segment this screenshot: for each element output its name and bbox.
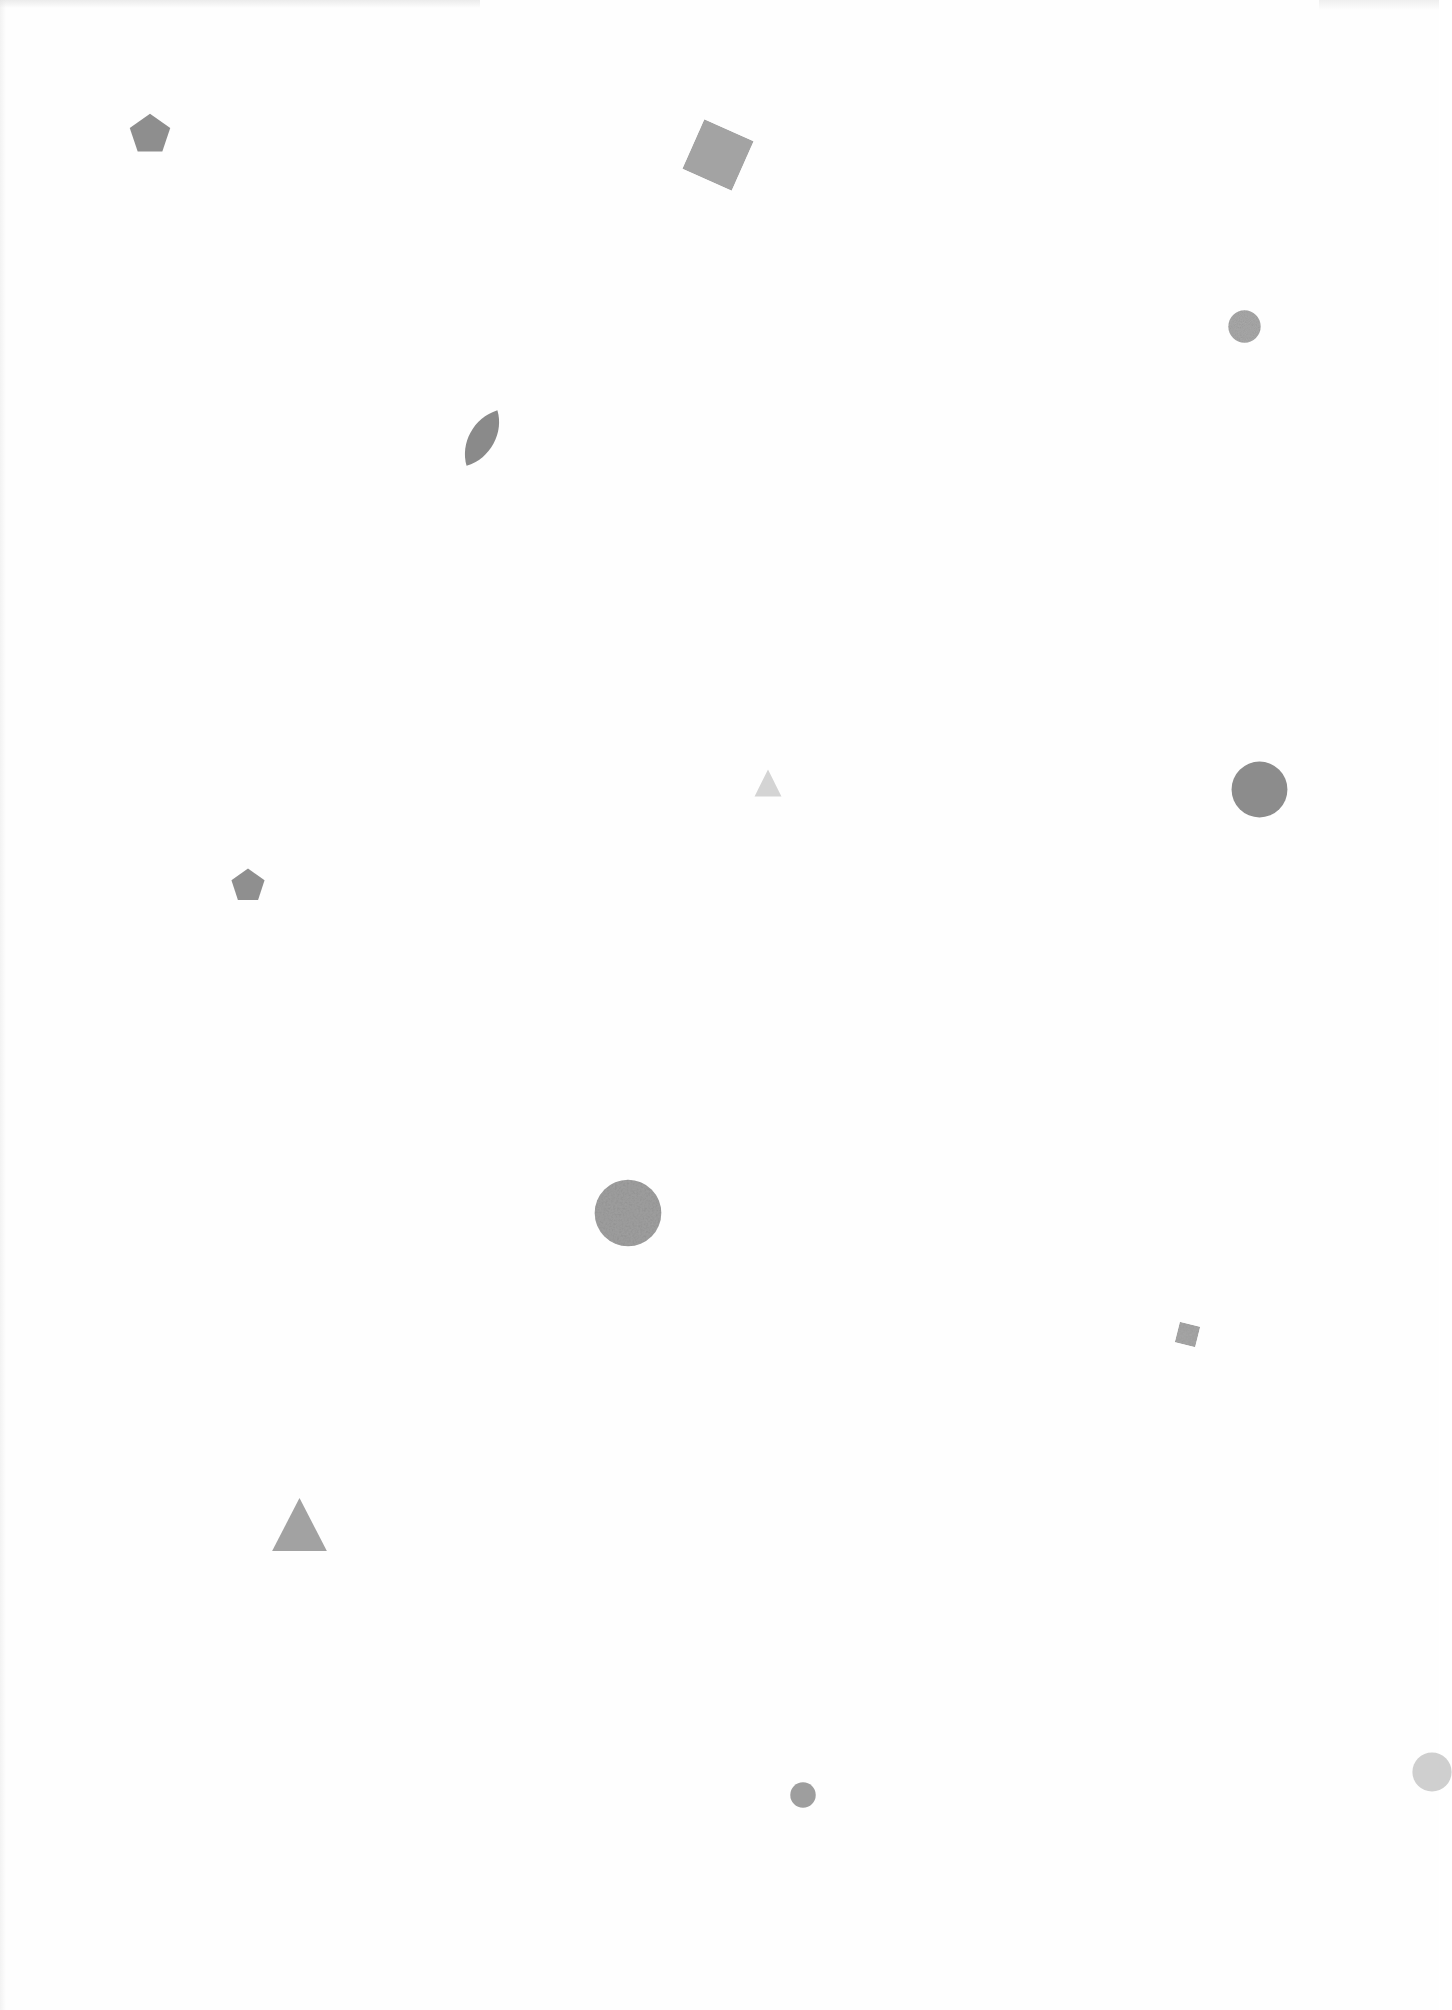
circle-shape-icon <box>1231 761 1288 818</box>
square-shape-icon <box>1174 1321 1199 1346</box>
scan-artifact-left <box>0 0 6 2010</box>
circle-shape-icon <box>790 1782 816 1808</box>
pentagon-shape-icon <box>230 867 266 902</box>
square-shape-icon <box>682 119 753 190</box>
circle-shape-icon <box>1228 310 1261 343</box>
leaf-shape-icon <box>460 409 504 467</box>
circle-shape-icon <box>1412 1752 1452 1792</box>
scan-artifact-top <box>0 0 480 8</box>
triangle-shape-icon <box>271 1497 328 1552</box>
pentagon-shape-icon <box>128 112 172 154</box>
triangle-shape-icon <box>754 769 782 797</box>
circle-shape-icon <box>594 1179 662 1247</box>
scan-artifact-top-right <box>1319 0 1439 10</box>
